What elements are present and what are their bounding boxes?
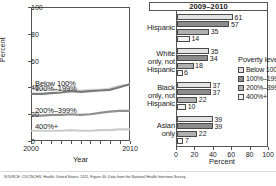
source-note: SOURCE: CDC/NCHS, Health, United States,… [4, 175, 272, 180]
bar-value-label: 6 [184, 69, 188, 76]
line-series-label: 400%+ [35, 123, 58, 131]
legend-swatch [238, 67, 244, 73]
line-chart-x-tick-mark [110, 141, 111, 144]
bar-chart-plot-area: Hispanic61573514Whiteonly, notHispanic35… [176, 11, 268, 147]
bar-value-label: 37 [213, 82, 221, 89]
line-chart-x-tick-label: 2000 [23, 145, 39, 153]
line-chart-x-tick-label: 2010 [122, 145, 138, 153]
line-chart-y-tick-mark [28, 87, 32, 88]
bar-value-label: 18 [195, 62, 203, 69]
bar [177, 89, 211, 95]
bar [177, 123, 213, 129]
line-chart-plot-area [31, 7, 130, 141]
bar-chart-x-tick-mark [176, 147, 177, 150]
bar-chart-x-tick-mark [250, 147, 251, 150]
line-chart-series-group [32, 8, 129, 140]
line-chart-x-tick-mark [130, 141, 131, 144]
line-chart-x-tick-mark [81, 141, 82, 144]
bar-value-label: 37 [213, 89, 221, 96]
bar-group-label: Asianonly [157, 122, 175, 138]
bar-value-label: 7 [185, 137, 189, 144]
bar-value-label: 34 [210, 55, 218, 62]
bar-group: Asianonly3939227 [177, 116, 267, 144]
line-chart-x-tick-mark [90, 141, 91, 144]
bar-group: Hispanic61573514 [177, 14, 267, 42]
legend-item: Below 100% [238, 65, 276, 74]
line-chart-x-tick-mark [51, 141, 52, 144]
footer-divider [0, 171, 276, 172]
bar-group-label: Blackonly, notHispanic [147, 84, 175, 108]
bar [177, 97, 197, 103]
bar-value-label: 22 [199, 96, 207, 103]
bar [177, 48, 209, 54]
bar [177, 21, 229, 27]
legend-item: 100%–199% [238, 74, 276, 83]
bar [177, 138, 183, 144]
bar-group-label: Hispanic [147, 24, 175, 32]
line-chart-x-tick-mark [61, 141, 62, 144]
bar-chart-x-tick-mark [213, 147, 214, 150]
legend-item: 200%–399% [238, 83, 276, 92]
line-chart-y-axis-title: Percent [0, 37, 6, 62]
bar-chart-x-tick-mark [231, 147, 232, 150]
bar-chart-title: 2009–2010 [149, 2, 268, 11]
legend-title: Poverty level [238, 55, 276, 64]
bar-chart-panel: 2009–2010 Hispanic61573514Whiteonly, not… [140, 0, 276, 172]
bar-chart-x-tick-mark [268, 147, 269, 150]
legend-swatch [238, 85, 244, 91]
line-chart-y-tick-mark [28, 114, 32, 115]
bar [177, 70, 183, 76]
bar-value-label: 10 [188, 103, 196, 110]
line-chart-panel: Percent 020406080100 20002010 Below 100%… [0, 0, 140, 172]
legend-item: 400%+ [238, 92, 276, 101]
bar [177, 55, 208, 61]
bar [177, 104, 186, 110]
line-series-label: 100%–199% [35, 85, 77, 93]
bar-group-label-line: Hispanic [147, 100, 175, 108]
bar [177, 82, 211, 88]
bar [177, 63, 194, 69]
bar-value-label: 61 [235, 14, 243, 21]
legend-swatch [238, 94, 244, 100]
legend-label: 200%–399% [246, 84, 276, 92]
bar [177, 116, 213, 122]
legend-label: 400%+ [246, 93, 267, 101]
bar-value-label: 22 [199, 130, 207, 137]
bar-value-label: 14 [191, 35, 199, 42]
bar-value-label: 57 [231, 21, 239, 28]
line-series-label: 200%–399% [35, 107, 77, 115]
line-chart-x-axis-title: Year [31, 155, 130, 164]
line-chart-x-tick-mark [71, 141, 72, 144]
line-chart-y-tick-mark [28, 61, 32, 62]
legend-swatch [238, 76, 244, 82]
bar-chart-legend: Poverty level Below 100%100%–199%200%–39… [238, 55, 276, 101]
bar-value-label: 39 [214, 116, 222, 123]
bar-group-label: Whiteonly, notHispanic [147, 50, 175, 74]
line-chart-x-tick-mark [100, 141, 101, 144]
bar-group-label-line: Hispanic [147, 66, 175, 74]
bar [177, 14, 233, 20]
bar [177, 131, 197, 137]
legend-items: Below 100%100%–199%200%–399%400%+ [238, 65, 276, 101]
line-chart-x-tick-mark [41, 141, 42, 144]
bar-chart-x-axis-title: Percent [176, 157, 268, 166]
line-chart-x-tick-mark [31, 141, 32, 144]
bar-chart-x-tick-mark [194, 147, 195, 150]
bar [177, 36, 190, 42]
line-chart-y-tick-mark [28, 7, 32, 8]
bar-value-label: 35 [211, 48, 219, 55]
figure-root: Percent 020406080100 20002010 Below 100%… [0, 0, 276, 186]
legend-label: Below 100% [246, 66, 276, 74]
bar-value-label: 35 [211, 28, 219, 35]
line-chart-y-tick-mark [28, 34, 32, 35]
bar-group-label-line: Hispanic [147, 24, 175, 32]
legend-label: 100%–199% [246, 75, 276, 83]
bar-value-label: 39 [214, 123, 222, 130]
line-chart-x-tick-mark [120, 141, 121, 144]
bar [177, 29, 209, 35]
bar-group-label-line: only [157, 130, 175, 138]
